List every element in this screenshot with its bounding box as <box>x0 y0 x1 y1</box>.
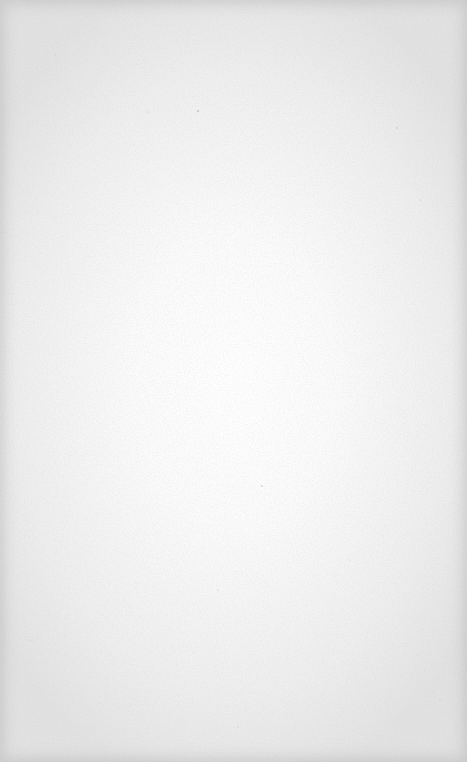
blank-paper-page <box>0 0 467 762</box>
paper-texture <box>0 0 467 762</box>
edge-vignette <box>0 0 467 762</box>
